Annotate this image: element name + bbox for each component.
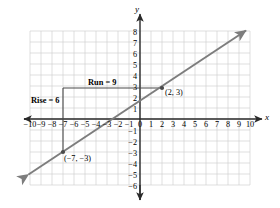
x-tick-label: 1 xyxy=(149,121,153,129)
x-tick-label: 4 xyxy=(182,121,186,129)
y-tick-label: 8 xyxy=(133,29,137,37)
x-tick-label: −9 xyxy=(37,121,46,129)
y-tick-label: 3 xyxy=(133,84,137,92)
rise-annotation-label: Rise = 6 xyxy=(31,97,60,105)
graph-figure: x y Run = 9 Rise = 6 (2, 3) (−7, −3) −10… xyxy=(0,0,280,208)
y-tick-label: −4 xyxy=(128,161,137,169)
point-label-lower: (−7, −3) xyxy=(64,155,91,163)
x-tick-label: −2 xyxy=(114,121,123,129)
y-tick-label: −1 xyxy=(128,128,137,136)
x-tick-label: −4 xyxy=(92,121,101,129)
x-tick-label: 6 xyxy=(204,121,208,129)
y-tick-label: 1 xyxy=(133,106,137,114)
x-tick-label: 3 xyxy=(171,121,175,129)
point-label-upper: (2, 3) xyxy=(165,89,183,97)
x-axis-label: x xyxy=(265,113,269,122)
x-tick-label: 7 xyxy=(215,121,219,129)
x-tick-label: 9 xyxy=(237,121,241,129)
x-tick-label: 0 xyxy=(138,121,142,129)
x-tick-label: −10 xyxy=(24,121,37,129)
x-tick-label: 10 xyxy=(246,121,254,129)
y-tick-label: 2 xyxy=(133,95,137,103)
x-tick-label: −3 xyxy=(103,121,112,129)
x-tick-label: −7 xyxy=(59,121,68,129)
y-tick-label: −6 xyxy=(128,183,137,191)
y-tick-label: 7 xyxy=(133,40,137,48)
y-tick-label: −2 xyxy=(128,139,137,147)
y-tick-label: 4 xyxy=(133,73,137,81)
y-tick-label: −3 xyxy=(128,150,137,158)
y-tick-label: 5 xyxy=(133,62,137,70)
x-tick-label: 2 xyxy=(160,121,164,129)
x-tick-label: 8 xyxy=(226,121,230,129)
x-tick-label: −6 xyxy=(70,121,79,129)
x-tick-label: −8 xyxy=(48,121,57,129)
x-tick-label: 5 xyxy=(193,121,197,129)
x-tick-label: −5 xyxy=(81,121,90,129)
run-annotation-label: Run = 9 xyxy=(88,79,117,87)
y-axis-label: y xyxy=(135,5,139,14)
y-tick-label: −5 xyxy=(128,172,137,180)
y-tick-label: 6 xyxy=(133,51,137,59)
